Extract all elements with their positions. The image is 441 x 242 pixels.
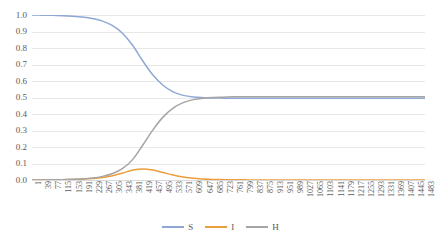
x-axis-tick-label: 609 [196,181,204,193]
y-axis-tick-label: 0.1 [16,159,27,168]
y-axis-tick-label: 0.2 [16,143,27,152]
y-axis-tick-label: 0.3 [16,126,27,135]
x-axis-tick-label: 761 [237,181,245,193]
x-axis-tick-label: 1217 [358,181,366,197]
x-axis-tick-label: 1255 [368,181,376,197]
legend-swatch-icon [246,226,268,228]
x-axis-tick-label: 77 [55,181,63,189]
x-axis-tick-label: 1179 [348,181,356,197]
x-axis-tick-label: 1 [35,181,43,185]
x-axis-tick-label: 989 [297,181,305,193]
x-axis-tick-label: 913 [277,181,285,193]
legend-label: S [188,223,193,232]
x-axis-tick-label: 229 [96,181,104,193]
y-axis-tick-label: 1.0 [16,11,27,20]
x-axis-tick-label: 571 [186,181,194,193]
series-line-s [32,15,425,98]
y-axis-tick-label: 0.5 [16,93,27,102]
x-axis-tick-label: 1445 [418,181,426,197]
plot-area [32,15,425,180]
x-axis-tick-label: 1027 [307,181,315,197]
x-axis-tick-label: 951 [287,181,295,193]
y-axis-tick-label: 0.0 [16,176,27,185]
x-axis-tick-label: 1141 [338,181,346,197]
x-axis: 1397711515319122926730534338141945749553… [32,181,425,217]
legend-swatch-icon [205,226,227,228]
x-axis-tick-label: 495 [166,181,174,193]
y-axis-tick-label: 0.9 [16,27,27,36]
legend-label: H [272,223,279,232]
x-axis-tick-label: 647 [207,181,215,193]
x-axis-tick-label: 267 [106,181,114,193]
x-axis-tick-label: 153 [76,181,84,193]
x-axis-tick-label: 533 [176,181,184,193]
legend-label: I [231,223,234,232]
chart-legend: SIH [0,219,441,235]
line-chart: 1.00.90.80.70.60.50.40.30.20.10.0 139771… [0,0,441,242]
x-axis-tick-label: 1293 [378,181,386,197]
x-axis-tick-label: 1369 [398,181,406,197]
x-axis-tick-label: 1407 [408,181,416,197]
x-axis-tick-label: 799 [247,181,255,193]
x-axis-tick-label: 837 [257,181,265,193]
x-axis-tick-label: 305 [116,181,124,193]
x-axis-tick-label: 191 [86,181,94,193]
x-axis-tick-label: 1331 [388,181,396,197]
x-axis-tick-label: 419 [146,181,154,193]
x-axis-tick-label: 39 [45,181,53,189]
legend-swatch-icon [162,226,184,228]
chart-series-canvas [32,15,425,180]
series-line-h [32,97,425,180]
x-axis-tick-label: 1103 [327,181,335,197]
legend-item-s[interactable]: S [162,223,193,232]
y-axis-tick-label: 0.6 [16,77,27,86]
x-axis-tick-label: 1065 [317,181,325,197]
x-axis-tick-label: 343 [126,181,134,193]
x-axis-tick-label: 381 [136,181,144,193]
x-axis-tick-label: 875 [267,181,275,193]
y-axis: 1.00.90.80.70.60.50.40.30.20.10.0 [0,0,30,242]
y-axis-tick-label: 0.7 [16,60,27,69]
legend-item-i[interactable]: I [205,223,234,232]
y-axis-tick-label: 0.4 [16,110,27,119]
x-axis-tick-label: 115 [65,181,73,193]
y-axis-tick-label: 0.8 [16,44,27,53]
x-axis-tick-label: 1483 [428,181,436,197]
x-axis-tick-label: 723 [227,181,235,193]
x-axis-tick-label: 685 [217,181,225,193]
x-axis-tick-label: 457 [156,181,164,193]
legend-item-h[interactable]: H [246,223,279,232]
